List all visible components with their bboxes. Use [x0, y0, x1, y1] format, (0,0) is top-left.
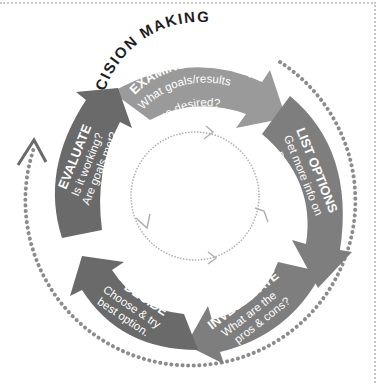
- inner-arrow-icon: [208, 252, 216, 264]
- inner-arrow-icon: [204, 126, 213, 139]
- decision-making-cycle-diagram: DECISION MAKING EXAMINE DECISION What go…: [0, 0, 382, 385]
- inner-dotted-cycle: [131, 132, 259, 260]
- inner-arrow-icon: [136, 214, 150, 228]
- inner-arrow-icon: [255, 208, 268, 222]
